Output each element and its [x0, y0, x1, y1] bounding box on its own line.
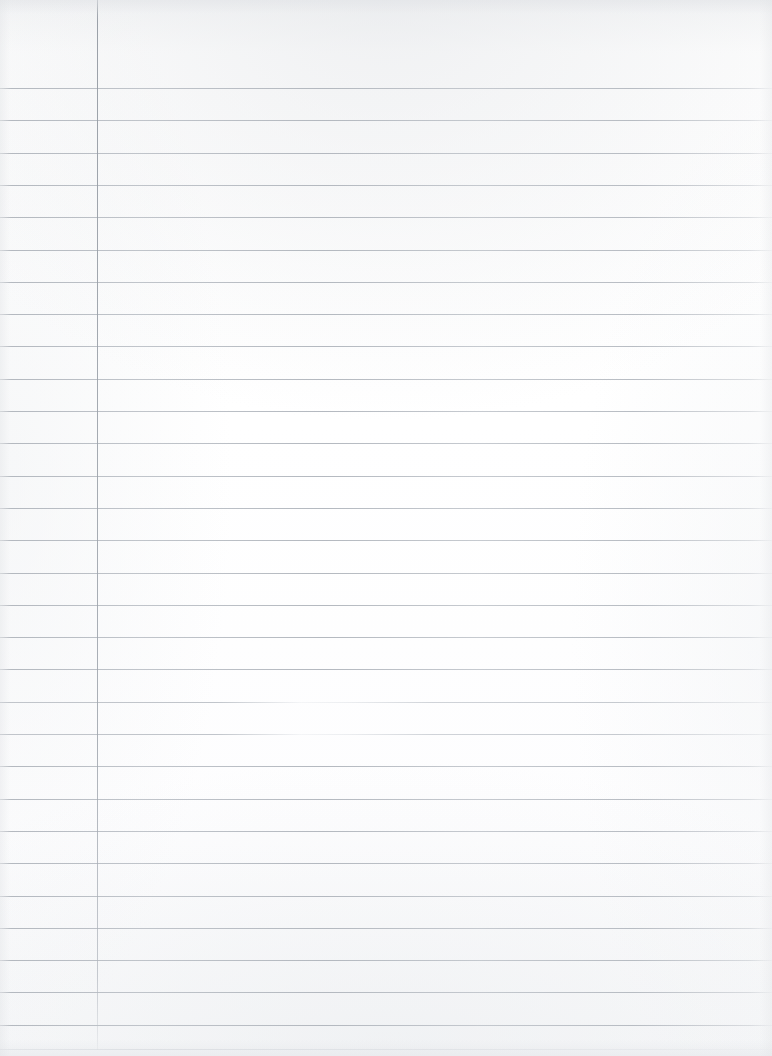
notebook-page [0, 0, 772, 1056]
writing-area[interactable] [0, 0, 772, 1056]
